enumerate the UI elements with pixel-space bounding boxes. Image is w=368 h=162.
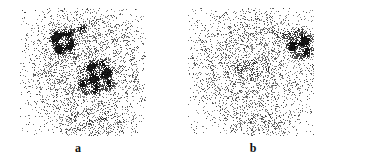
scintigraphy-figure: a b <box>0 0 368 162</box>
panel-a <box>20 8 146 136</box>
panel-a-label: a <box>68 142 88 154</box>
panel-a-scintigram <box>20 8 146 136</box>
panel-b-scintigram <box>188 8 314 136</box>
panel-b-label: b <box>243 142 263 154</box>
panel-b <box>188 8 314 136</box>
